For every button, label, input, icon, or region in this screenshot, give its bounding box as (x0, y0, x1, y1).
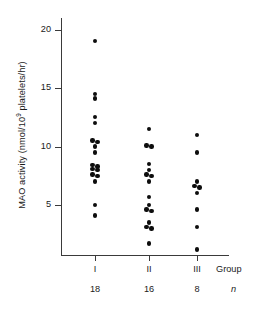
data-point (90, 167, 94, 171)
data-point (147, 195, 151, 199)
chart-figure: MAO activity (nmol/109 platelets/hr) 510… (0, 0, 261, 309)
data-point (195, 150, 199, 154)
data-point (147, 127, 151, 131)
data-point (195, 133, 199, 137)
data-point (95, 168, 99, 172)
data-point (93, 115, 97, 119)
y-axis-line (61, 18, 62, 256)
data-point (144, 143, 148, 147)
y-axis-label-superscript: 9 (15, 113, 22, 117)
data-point (149, 174, 153, 178)
data-point (195, 225, 199, 229)
x-tick-label-III: III (177, 264, 217, 274)
y-tick-label-5: 5 (25, 199, 51, 209)
data-point (90, 172, 94, 176)
y-tick-label-20: 20 (25, 24, 51, 34)
data-point (93, 179, 97, 183)
data-point (93, 203, 97, 207)
n-count-I: 18 (75, 284, 115, 294)
data-point (93, 39, 97, 43)
data-point (149, 226, 153, 230)
x-tick-label-I: I (75, 264, 115, 274)
data-point (195, 191, 199, 195)
data-point (144, 225, 148, 229)
y-tick-label-10: 10 (25, 141, 51, 151)
data-point (147, 162, 151, 166)
y-tick-15 (55, 88, 61, 89)
x-tick-II (149, 255, 150, 261)
data-point (195, 247, 199, 251)
data-point (90, 138, 94, 142)
n-count-II: 16 (129, 284, 169, 294)
data-point (144, 207, 148, 211)
x-axis-caption-group: Group (216, 264, 242, 274)
x-axis-caption-n: n (231, 284, 236, 294)
data-point (93, 150, 97, 154)
y-tick-10 (55, 147, 61, 148)
x-tick-III (197, 255, 198, 261)
data-point (192, 184, 196, 188)
n-count-III: 8 (177, 284, 217, 294)
x-tick-I (95, 255, 96, 261)
data-point (93, 213, 97, 217)
x-tick-label-II: II (129, 264, 169, 274)
data-point (95, 174, 99, 178)
data-point (144, 172, 148, 176)
data-point (197, 185, 201, 189)
y-tick-label-15: 15 (25, 82, 51, 92)
data-point (149, 209, 153, 213)
x-axis-line (61, 255, 229, 256)
data-point (149, 144, 153, 148)
y-axis-label-prefix: MAO activity (nmol/10 (17, 117, 27, 209)
y-tick-20 (55, 30, 61, 31)
data-point (195, 207, 199, 211)
y-tick-5 (55, 205, 61, 206)
data-point (147, 241, 151, 245)
data-point (93, 121, 97, 125)
data-point (93, 144, 97, 148)
data-point (147, 179, 151, 183)
data-point (93, 96, 97, 100)
